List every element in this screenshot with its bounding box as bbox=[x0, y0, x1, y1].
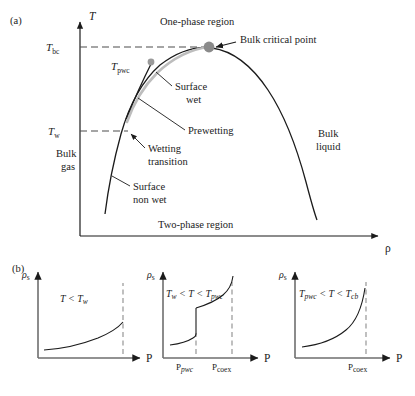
panel-b: (b) ρs P T < Tw ρs P Tw < T < Tp bbox=[12, 263, 402, 374]
tick-tbc-subscript: bc bbox=[52, 47, 60, 56]
panel-a-tag: (a) bbox=[10, 15, 22, 27]
svg-text:Tbc: Tbc bbox=[46, 41, 60, 56]
prewetting-line bbox=[126, 64, 151, 119]
region-bulk-liquid-line1: Bulk bbox=[318, 128, 339, 139]
subplot2-tick-ppwc: Ppwc bbox=[176, 362, 194, 374]
region-bulk-gas-line1: Bulk bbox=[56, 148, 77, 159]
annot-nonwet-line2: non wet bbox=[133, 194, 167, 205]
wetting-transition-arrow bbox=[131, 134, 145, 148]
region-bulk-liquid: Bulk liquid bbox=[316, 128, 341, 152]
panel-a-x-axis-label: ρ bbox=[385, 242, 391, 255]
annot-nonwet-line1: Surface bbox=[133, 181, 165, 192]
phase-diagram-svg: (a) T ρ Tbc Tw bbox=[0, 0, 415, 396]
bulk-critical-point-arrow bbox=[216, 42, 236, 47]
subplot-mid-T: ρs P Tw < T < Tpwc Ppwc Pcoex bbox=[146, 269, 270, 374]
subplot-high-T: ρs P Tpwc < T < Tcb Pcoex bbox=[278, 269, 402, 374]
annot-surface-wet: Surface wet bbox=[156, 72, 207, 105]
region-bulk-liquid-line2: liquid bbox=[316, 141, 341, 152]
subplot1-condition: T < Tw bbox=[60, 293, 88, 306]
annot-prewetting-text: Prewetting bbox=[188, 125, 234, 136]
svg-text:Tw: Tw bbox=[48, 125, 60, 140]
subplot1-curve bbox=[44, 322, 123, 350]
bulk-critical-point-marker bbox=[204, 42, 215, 53]
annot-bulk-critical-point: Bulk critical point bbox=[240, 34, 316, 45]
surface-non-wet-leader bbox=[112, 176, 130, 186]
prewetting-leader bbox=[138, 98, 185, 130]
prewetting-critical-point-marker bbox=[148, 59, 155, 66]
tick-tbc: Tbc bbox=[46, 41, 60, 56]
subplot3-condition: Tpwc < T < Tcb bbox=[299, 288, 358, 301]
subplot3-tick-pcoex: Pcoex bbox=[348, 362, 367, 374]
region-bulk-gas: Bulk gas bbox=[56, 148, 77, 172]
subplot1-y-label: ρs bbox=[21, 269, 30, 282]
tick-tw: Tw bbox=[48, 125, 60, 140]
subplot2-condition: Tw < T < Tpwc bbox=[166, 288, 224, 301]
annot-surface-non-wet: Surface non wet bbox=[112, 176, 167, 205]
subplot-low-T: ρs P T < Tw bbox=[21, 269, 152, 364]
region-one-phase: One-phase region bbox=[160, 16, 235, 27]
region-two-phase: Two-phase region bbox=[158, 219, 234, 230]
label-tpwc: Tpwc bbox=[111, 60, 130, 75]
subplot2-x-label: P bbox=[264, 352, 270, 364]
subplot2-tick-pcoex: Pcoex bbox=[212, 362, 231, 374]
tick-tw-subscript: w bbox=[54, 131, 60, 140]
figure-root: (a) T ρ Tbc Tw bbox=[0, 0, 415, 396]
annot-wetting-transition: Wetting transition bbox=[131, 134, 188, 167]
panel-a: (a) T ρ Tbc Tw bbox=[10, 10, 391, 255]
subplot1-x-label: P bbox=[146, 352, 152, 364]
subplot2-thin-branch bbox=[170, 334, 196, 345]
annot-wetting-line2: transition bbox=[148, 156, 188, 167]
annot-surface-wet-line2: wet bbox=[186, 94, 201, 105]
annot-wetting-line1: Wetting bbox=[148, 143, 182, 154]
surface-wet-leader bbox=[156, 72, 172, 86]
panel-a-y-axis-label: T bbox=[89, 10, 97, 22]
subplot3-y-label: ρs bbox=[278, 269, 287, 282]
annot-surface-wet-line1: Surface bbox=[175, 81, 207, 92]
subplot3-x-label: P bbox=[396, 352, 402, 364]
region-bulk-gas-line2: gas bbox=[61, 161, 75, 172]
subplot2-y-label: ρs bbox=[146, 269, 155, 282]
